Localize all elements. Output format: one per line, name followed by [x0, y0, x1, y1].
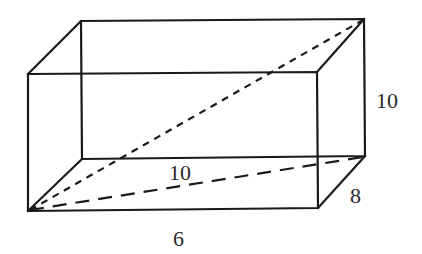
- edge-top-right: [317, 19, 364, 72]
- base-diagonal: [30, 157, 363, 210]
- back-face: [81, 19, 365, 159]
- front-face: [28, 72, 318, 211]
- prism-diagram: 10 8 6 10: [0, 0, 422, 254]
- label-height: 10: [376, 88, 398, 113]
- space-diagonal: [30, 20, 363, 210]
- label-width: 6: [173, 226, 184, 251]
- label-depth: 8: [350, 183, 361, 208]
- edge-top-left: [28, 21, 81, 74]
- edge-bottom-left: [28, 159, 82, 211]
- label-base-diagonal: 10: [169, 160, 191, 185]
